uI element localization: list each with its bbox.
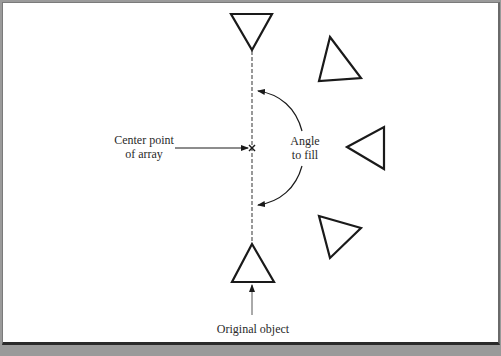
original-object-triangle — [232, 244, 274, 282]
lower-right-triangle — [319, 216, 361, 258]
center-point-label: Center point of array — [113, 133, 175, 161]
upper-right-triangle — [319, 37, 361, 81]
middle-right-triangle — [347, 127, 384, 169]
polar-array-diagram — [0, 0, 501, 356]
original-object-text: Original object — [217, 322, 289, 336]
center-point-label-line2: of array — [113, 147, 175, 161]
angle-label-line1: Angle — [285, 134, 325, 148]
angle-arc-lower — [258, 166, 302, 205]
original-object-label: Original object — [210, 322, 296, 336]
angle-to-fill-label: Angle to fill — [285, 134, 325, 162]
top-triangle — [231, 14, 272, 50]
center-point-label-line1: Center point — [113, 133, 175, 147]
angle-label-line2: to fill — [285, 148, 325, 162]
angle-arc-upper — [258, 91, 302, 131]
